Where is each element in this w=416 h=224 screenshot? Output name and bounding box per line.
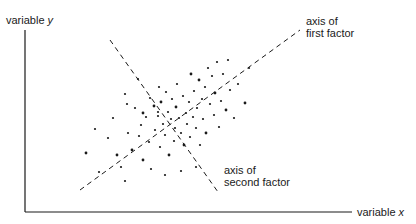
data-point <box>196 107 198 109</box>
data-point <box>140 124 142 126</box>
data-point <box>216 61 218 63</box>
data-point <box>207 67 209 69</box>
data-point <box>131 149 134 152</box>
data-point <box>98 171 100 173</box>
x-axis-label-text: variable <box>357 206 396 218</box>
data-point <box>213 114 215 116</box>
data-point <box>180 132 182 134</box>
data-point <box>183 144 186 147</box>
data-point <box>124 93 126 95</box>
data-point <box>237 83 239 85</box>
data-point <box>94 128 96 130</box>
y-axis-variable: y <box>48 14 54 26</box>
data-point <box>248 67 250 69</box>
data-point <box>126 103 128 105</box>
data-point <box>205 132 208 135</box>
y-axis-label-text: variable <box>6 14 45 26</box>
data-point <box>112 117 114 119</box>
second-factor-label-line2: second factor <box>224 176 290 188</box>
data-point <box>209 103 211 105</box>
second-factor-axis-line <box>110 40 218 192</box>
data-point <box>199 144 201 146</box>
data-point <box>171 98 173 100</box>
x-axis-label: variable x <box>357 206 404 218</box>
data-point <box>227 59 229 61</box>
data-point <box>116 154 119 157</box>
data-point <box>182 95 184 97</box>
data-point <box>168 154 171 157</box>
data-point <box>176 83 178 85</box>
first-factor-label-line1: axis of <box>306 15 354 27</box>
data-point <box>164 134 166 136</box>
data-point <box>202 118 204 120</box>
data-point <box>142 112 145 115</box>
data-point <box>192 116 194 118</box>
data-point <box>153 105 156 108</box>
data-point <box>160 101 163 104</box>
data-point <box>165 91 167 93</box>
data-point <box>218 126 220 128</box>
data-point <box>190 73 193 76</box>
data-point <box>220 100 222 102</box>
data-point <box>193 90 195 92</box>
data-point <box>154 129 156 131</box>
data-point <box>195 166 197 168</box>
data-point <box>157 111 159 113</box>
y-axis-label: variable y <box>6 14 53 26</box>
data-point <box>185 112 187 114</box>
x-axis-variable: x <box>399 206 405 218</box>
data-point <box>124 180 126 182</box>
data-point <box>142 159 145 162</box>
data-point <box>211 75 213 77</box>
first-factor-label-line2: first factor <box>306 27 354 39</box>
data-point <box>201 98 203 100</box>
second-factor-label: axis of second factor <box>224 164 290 188</box>
data-point <box>149 97 151 99</box>
data-point <box>127 132 129 134</box>
data-point <box>173 140 175 142</box>
data-point <box>120 166 122 168</box>
data-point <box>189 136 191 138</box>
data-point <box>170 118 172 120</box>
data-point <box>188 101 190 103</box>
data-point <box>137 78 139 80</box>
data-point <box>214 92 217 95</box>
data-point <box>186 123 188 125</box>
data-point <box>158 86 160 88</box>
data-point <box>167 111 169 113</box>
data-point <box>164 174 166 176</box>
data-point <box>204 86 206 88</box>
data-point <box>107 137 109 139</box>
data-point <box>134 107 136 109</box>
first-factor-label: axis of first factor <box>306 15 354 39</box>
data-point <box>175 106 178 109</box>
data-point <box>148 141 150 143</box>
data-point <box>198 79 201 82</box>
data-point <box>244 102 247 105</box>
data-point <box>159 146 161 148</box>
data-point <box>85 152 88 155</box>
second-factor-label-line1: axis of <box>224 164 290 176</box>
data-point <box>195 127 197 129</box>
data-point <box>145 116 147 118</box>
data-point <box>180 170 182 172</box>
data-point <box>225 109 228 112</box>
data-point <box>222 73 224 75</box>
data-point <box>162 123 164 125</box>
data-point <box>229 89 231 91</box>
data-point <box>233 117 235 119</box>
data-point <box>157 115 159 117</box>
data-point <box>178 117 180 119</box>
data-point <box>174 127 176 129</box>
data-point <box>150 168 152 170</box>
data-point <box>138 135 140 137</box>
